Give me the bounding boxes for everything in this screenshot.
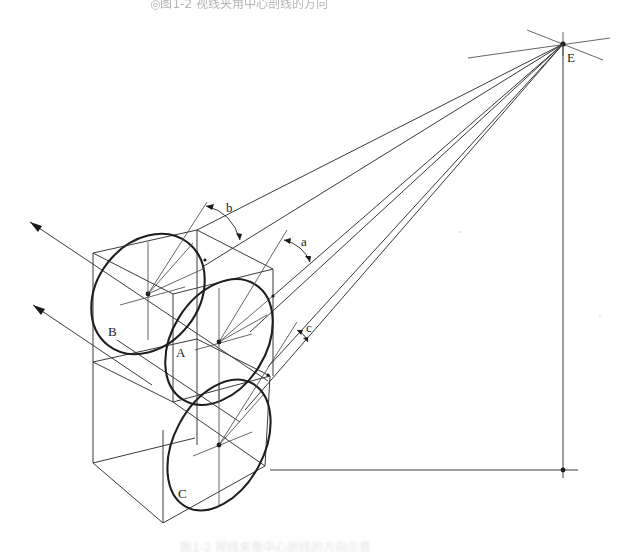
- arrow-head-icon: [30, 222, 42, 232]
- label-angle-b: b: [226, 200, 233, 215]
- angle-a-arc: [219, 230, 311, 342]
- label-b: B: [108, 324, 117, 339]
- ground-point-dot: [561, 468, 566, 473]
- label-angle-c: c: [306, 320, 312, 335]
- label-a: A: [176, 345, 186, 360]
- direction-arrows: [30, 222, 268, 422]
- arrow-head-icon: [33, 305, 45, 315]
- label-angle-a: a: [301, 234, 307, 249]
- eye-point-e-marker: [468, 30, 610, 60]
- speck: [599, 315, 601, 317]
- figure-caption-bottom: 图1-2 视线夹角中心剖线的方向示意: [180, 538, 480, 552]
- sight-lines: [197, 44, 563, 410]
- label-c: C: [178, 486, 187, 501]
- angle-c-arc: [219, 322, 308, 445]
- upper-box: [93, 230, 273, 445]
- speck: [459, 231, 461, 233]
- perspective-ellipse-diagram: E: [0, 0, 631, 552]
- label-e: E: [567, 50, 575, 65]
